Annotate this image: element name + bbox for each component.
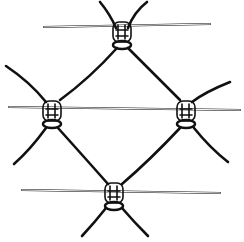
knot-bottom [105, 183, 123, 210]
mesh-svg [0, 0, 244, 242]
knot-left [43, 101, 61, 128]
wire-mesh-drawing [0, 0, 244, 242]
knot-right [177, 101, 195, 128]
